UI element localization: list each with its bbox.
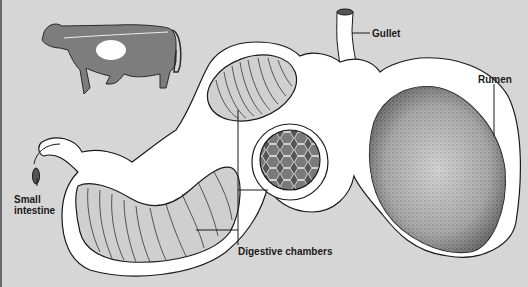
cow-illustration bbox=[42, 24, 181, 94]
small-intestine-label-line2: intestine bbox=[14, 205, 55, 216]
digestive-chambers-label: Digestive chambers bbox=[238, 246, 333, 257]
digestive-diagram bbox=[0, 0, 528, 287]
small-intestine-label-line1: Small bbox=[14, 194, 41, 205]
gullet bbox=[337, 9, 370, 66]
cow-stomach-highlight bbox=[96, 40, 126, 60]
rumen-label: Rumen bbox=[478, 74, 512, 85]
gullet-label: Gullet bbox=[372, 28, 400, 39]
reticulum-chamber bbox=[252, 124, 328, 200]
